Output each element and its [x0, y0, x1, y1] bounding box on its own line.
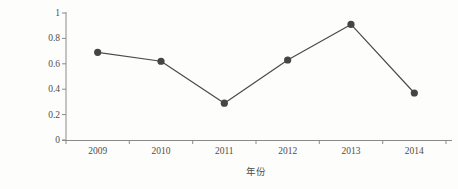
x-tick-label-2009: 2009: [73, 145, 123, 157]
x-tick-label-2014: 2014: [389, 145, 439, 157]
x-axis-tick-labels: 200920102011201220132014: [66, 145, 446, 159]
y-tick-label-0.8: 0.8: [30, 33, 60, 43]
data-point-2009: [94, 49, 101, 56]
x-tick-label-2011: 2011: [199, 145, 249, 157]
x-tick-label-2012: 2012: [263, 145, 313, 157]
data-point-2011: [221, 100, 228, 107]
data-point-2012: [284, 56, 291, 63]
data-series-layer: [66, 13, 446, 140]
y-tick-label-0: 0: [30, 135, 60, 145]
plot-area: [66, 13, 446, 140]
y-tick-label-0.4: 0.4: [30, 84, 60, 94]
y-tick-label-0.2: 0.2: [30, 110, 60, 120]
y-tick-label-0.6: 0.6: [30, 59, 60, 69]
series-line-inorganic-nitrogen: [98, 24, 415, 103]
x-tick-label-2013: 2013: [326, 145, 376, 157]
y-tick-label-1: 1: [30, 8, 60, 18]
series-markers: [94, 21, 418, 107]
x-tick-label-2010: 2010: [136, 145, 186, 157]
y-axis-tick-labels: 00.20.40.60.81: [30, 0, 60, 189]
data-point-2010: [157, 58, 164, 65]
data-point-2013: [347, 21, 354, 28]
x-axis-title: 年份: [66, 166, 446, 178]
data-point-2014: [411, 89, 418, 96]
line-chart-figure: 无机氮含量（mg/L） 00.20.40.60.81 2009201020112…: [0, 0, 458, 189]
